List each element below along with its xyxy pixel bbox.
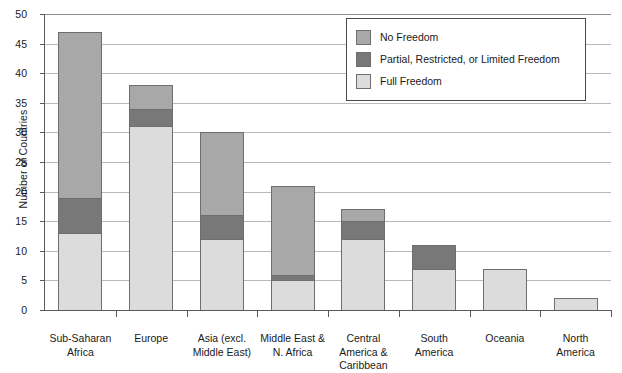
y-axis-tick-label: 5: [1, 275, 27, 286]
y-axis-tick: [40, 132, 45, 133]
bar-segment: [129, 85, 173, 109]
bar-segment: [129, 109, 173, 127]
bar-segment: [58, 198, 102, 234]
legend-item[interactable]: Full Freedom: [356, 70, 576, 92]
x-axis-tick: [116, 310, 117, 317]
legend-item-label: No Freedom: [380, 31, 438, 43]
bar-segment: [412, 245, 456, 269]
chart-legend: No FreedomPartial, Restricted, or Limite…: [346, 18, 586, 101]
y-axis-tick: [40, 251, 45, 252]
bar-sub-saharan-africa[interactable]: [58, 32, 102, 310]
y-axis-tick-label: 20: [1, 187, 27, 198]
y-axis-tick: [40, 73, 45, 74]
bar-middle-east-n-africa[interactable]: [271, 186, 315, 310]
x-axis-tick: [540, 310, 541, 317]
y-axis-tick: [40, 310, 45, 311]
bar-asia-excl-middle-east[interactable]: [200, 132, 244, 310]
bar-segment: [554, 298, 598, 310]
gridline: [45, 14, 611, 15]
y-axis-tick: [40, 280, 45, 281]
x-axis-tick: [470, 310, 471, 317]
y-axis-tick: [40, 44, 45, 45]
y-axis-tick-label: 35: [1, 98, 27, 109]
y-axis-tick-label: 40: [1, 68, 27, 79]
x-axis-label: NorthAmerica: [530, 332, 622, 359]
x-axis-label-line: America: [388, 346, 480, 360]
bar-europe[interactable]: [129, 85, 173, 310]
y-axis-tick-label: 45: [1, 39, 27, 50]
y-axis-tick: [40, 14, 45, 15]
bar-segment: [129, 126, 173, 310]
y-axis-tick-label: 0: [1, 305, 27, 316]
x-axis-tick: [399, 310, 400, 317]
y-axis-tick-label: 10: [1, 246, 27, 257]
bar-segment: [58, 32, 102, 198]
bar-segment: [341, 209, 385, 221]
bar-segment: [483, 269, 527, 310]
x-axis-label-line: North: [530, 332, 622, 346]
bar-central-america-caribbean[interactable]: [341, 209, 385, 310]
x-axis-tick: [328, 310, 329, 317]
bar-segment: [271, 280, 315, 310]
x-axis-tick: [187, 310, 188, 317]
y-axis-tick-label: 30: [1, 127, 27, 138]
bar-segment: [412, 269, 456, 310]
y-axis-tick: [40, 192, 45, 193]
bar-segment: [200, 132, 244, 215]
bar-segment: [200, 239, 244, 310]
bar-segment: [200, 215, 244, 239]
bar-segment: [271, 186, 315, 275]
y-axis-tick: [40, 221, 45, 222]
y-axis-tick: [40, 162, 45, 163]
legend-item-label: Partial, Restricted, or Limited Freedom: [380, 53, 560, 65]
x-axis-tick: [257, 310, 258, 317]
y-axis-tick-label: 25: [1, 157, 27, 168]
y-axis-tick: [40, 103, 45, 104]
legend-color-swatch: [356, 52, 371, 67]
legend-color-swatch: [356, 74, 371, 89]
x-axis-label-line: Caribbean: [317, 359, 409, 373]
x-axis-tick: [611, 310, 612, 317]
x-axis-label-line: America: [530, 346, 622, 360]
legend-item[interactable]: No Freedom: [356, 26, 576, 48]
x-axis-label-line: Africa: [34, 346, 126, 360]
bar-segment: [341, 221, 385, 239]
bar-segment: [58, 233, 102, 310]
y-axis-tick-label: 15: [1, 216, 27, 227]
legend-item-label: Full Freedom: [380, 75, 442, 87]
bar-south-america[interactable]: [412, 245, 456, 310]
legend-item[interactable]: Partial, Restricted, or Limited Freedom: [356, 48, 576, 70]
bar-segment: [341, 239, 385, 310]
bar-north-america[interactable]: [554, 298, 598, 310]
bar-oceania[interactable]: [483, 269, 527, 310]
legend-color-swatch: [356, 30, 371, 45]
y-axis-tick-label: 50: [1, 9, 27, 20]
